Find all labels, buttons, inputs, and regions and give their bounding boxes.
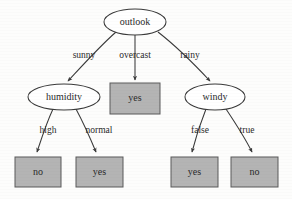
decision-tree-diagram: outlook humidity yes windy no yes yes no… (0, 0, 292, 199)
edge-humidity-no-high (37, 109, 53, 152)
edge-windy-yes-false (192, 109, 206, 152)
leaf-box-no-high (15, 157, 61, 187)
leaf-box-yes-overcast (110, 83, 160, 114)
edge-outlook-windy (158, 32, 210, 81)
leaf-box-yes-normal (76, 157, 123, 187)
decision-ellipse-windy (185, 84, 245, 110)
leaf-box-yes-false (171, 157, 218, 187)
leaf-box-no-true (231, 157, 278, 187)
decision-ellipse-outlook (104, 9, 166, 35)
edge-windy-no-true (226, 109, 252, 152)
tree-graphics-layer (0, 0, 292, 199)
edge-humidity-yes-normal (76, 109, 96, 152)
edge-outlook-humidity (68, 32, 116, 81)
decision-ellipse-humidity (28, 84, 100, 110)
